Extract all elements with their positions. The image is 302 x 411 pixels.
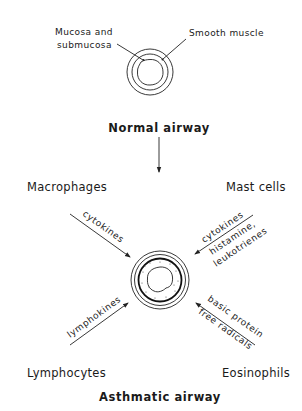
mucosa-label-line2: submucosa [57, 40, 112, 50]
diagram-svg: Mucosa and submucosa Smooth muscle Norma… [0, 0, 302, 411]
lymphocytes-label: Lymphocytes [27, 366, 106, 380]
lymphocytes-mediator-lymphokines: lymphokines [65, 294, 123, 339]
thickened-smooth-muscle-circle [139, 259, 182, 302]
mast-cells-label: Mast cells [226, 180, 286, 194]
eosinophils-label: Eosinophils [222, 366, 290, 380]
airway-diagram: Mucosa and submucosa Smooth muscle Norma… [0, 0, 302, 411]
lumen-outline [137, 59, 163, 85]
asthmatic-airway-cross-section [131, 251, 189, 309]
normal-airway-title: Normal airway [108, 121, 210, 135]
smooth-muscle-leader-dot [162, 59, 164, 61]
macrophages-label: Macrophages [27, 180, 107, 194]
mucosa-label-line1: Mucosa and [55, 27, 113, 37]
mucosa-leader-dot [143, 59, 145, 61]
asthmatic-airway-title: Asthmatic airway [99, 390, 221, 404]
smooth-muscle-leader-line [163, 39, 186, 59]
narrowed-lumen-outline [147, 267, 172, 292]
outer-wall-circle [131, 251, 189, 309]
smooth-muscle-label: Smooth muscle [189, 28, 264, 38]
